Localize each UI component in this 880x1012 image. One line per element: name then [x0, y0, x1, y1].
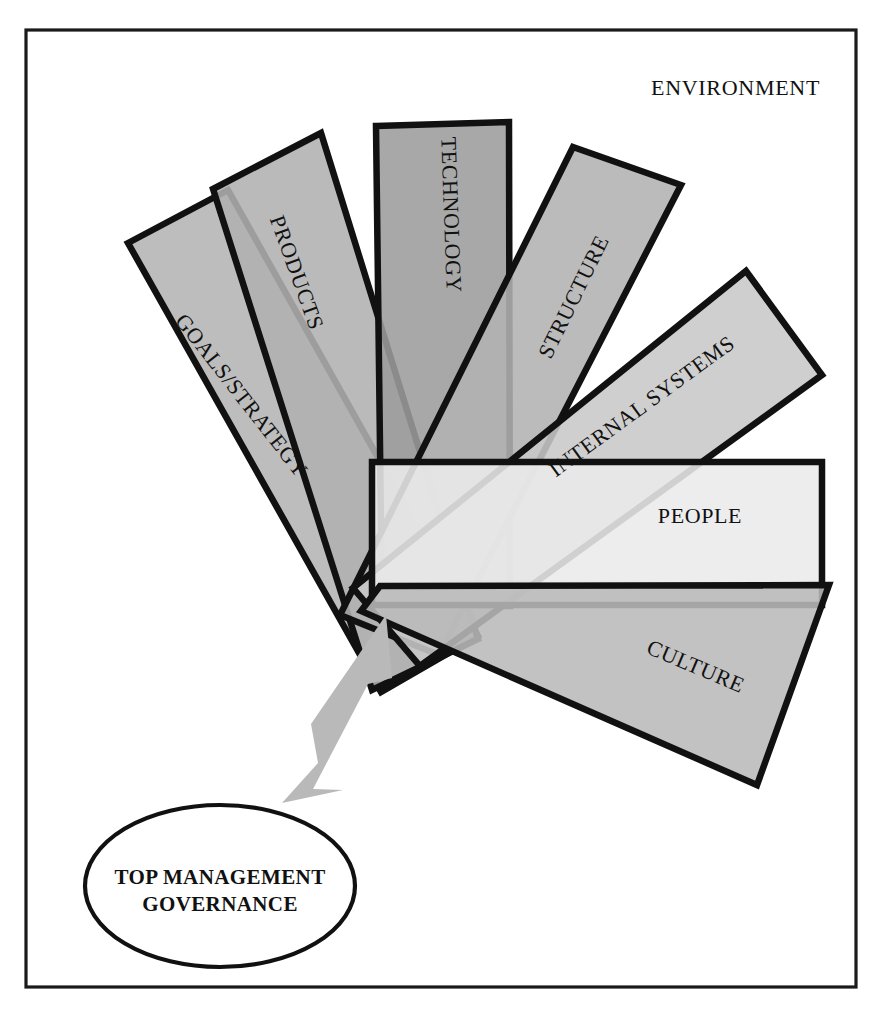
blade-label-people: PEOPLE: [658, 503, 742, 528]
blade-culture: [361, 585, 829, 785]
governance-label-line2: GOVERNANCE: [142, 892, 298, 916]
governance-arrow-icon: [282, 615, 392, 803]
organization-fan-diagram: ENVIRONMENT GOALS/STRATEGYPRODUCTSTECHNO…: [0, 0, 880, 1012]
governance-label-line1: TOP MANAGEMENT: [114, 865, 325, 889]
blades-group: GOALS/STRATEGYPRODUCTSTECHNOLOGYSTRUCTUR…: [128, 122, 829, 785]
diagram-canvas: ENVIRONMENT GOALS/STRATEGYPRODUCTSTECHNO…: [0, 0, 880, 1012]
environment-label: ENVIRONMENT: [651, 75, 820, 100]
